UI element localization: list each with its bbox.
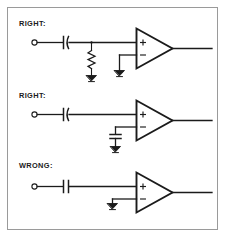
opamp-symbol — [137, 29, 173, 69]
section-label-right-top: RIGHT: — [19, 19, 46, 28]
input-terminal-icon — [32, 112, 37, 117]
input-terminal-icon — [32, 184, 37, 189]
opamp-symbol — [137, 101, 173, 141]
circuit-schematic — [0, 0, 227, 239]
resistor-icon — [88, 51, 95, 69]
circuit-right-middle — [32, 101, 212, 153]
circuit-wrong-bottom — [32, 173, 212, 213]
ground-symbol-shunt-cap — [111, 147, 121, 153]
circuit-right-top — [32, 29, 212, 82]
series-capacitor-icon — [64, 37, 69, 49]
section-label-right-middle: RIGHT: — [19, 91, 46, 100]
input-terminal-icon — [32, 40, 37, 45]
section-label-wrong-bottom: WRONG: — [19, 161, 53, 170]
ground-symbol-minus-input — [115, 71, 125, 77]
ground-symbol-resistor — [87, 76, 97, 82]
series-capacitor-icon — [64, 109, 69, 121]
opamp-symbol — [137, 173, 173, 213]
ground-symbol-minus-input — [108, 204, 118, 210]
series-capacitor-icon — [64, 181, 69, 193]
